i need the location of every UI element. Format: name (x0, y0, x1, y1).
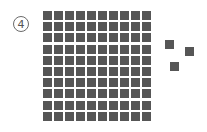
grid-square (120, 56, 129, 65)
grid-square (65, 78, 74, 87)
grid-square (65, 101, 74, 110)
grid-square (76, 101, 85, 110)
grid-square (65, 33, 74, 42)
grid-square (98, 56, 107, 65)
grid-square (65, 11, 74, 20)
grid-square (98, 33, 107, 42)
grid-square (98, 11, 107, 20)
grid-square (109, 33, 118, 42)
grid-square (87, 78, 96, 87)
grid-square (43, 78, 52, 87)
grid-square (76, 89, 85, 98)
grid-square (54, 67, 63, 76)
grid-square (120, 22, 129, 31)
grid-square (54, 33, 63, 42)
grid-square (87, 11, 96, 20)
grid-square (43, 112, 52, 121)
grid-square (54, 89, 63, 98)
grid-square (87, 112, 96, 121)
grid-square (98, 22, 107, 31)
grid-square (120, 89, 129, 98)
grid-square (120, 67, 129, 76)
loose-square (165, 40, 174, 49)
grid-square (131, 56, 140, 65)
grid-square (43, 33, 52, 42)
grid-square (109, 112, 118, 121)
grid-square (131, 101, 140, 110)
grid-square (142, 89, 151, 98)
grid-square (109, 11, 118, 20)
grid-square (65, 22, 74, 31)
grid-square (98, 67, 107, 76)
grid-square (131, 89, 140, 98)
grid-square (142, 112, 151, 121)
grid-square (120, 78, 129, 87)
grid-square (109, 56, 118, 65)
grid-square (76, 45, 85, 54)
grid-square (120, 101, 129, 110)
grid-square (87, 56, 96, 65)
grid-square (142, 22, 151, 31)
grid-square (87, 22, 96, 31)
grid-square (109, 89, 118, 98)
grid-square (131, 112, 140, 121)
grid-square (142, 56, 151, 65)
grid-square (109, 67, 118, 76)
grid-square (142, 67, 151, 76)
grid-square (76, 22, 85, 31)
grid-square (87, 89, 96, 98)
grid-square (109, 101, 118, 110)
grid-square (109, 22, 118, 31)
grid-square (109, 78, 118, 87)
grid-square (43, 67, 52, 76)
grid-square (98, 101, 107, 110)
grid-square (54, 11, 63, 20)
grid-square (43, 89, 52, 98)
grid-square (87, 45, 96, 54)
grid-square (120, 11, 129, 20)
grid-square (87, 101, 96, 110)
grid-square (76, 11, 85, 20)
grid-square (98, 45, 107, 54)
grid-square (54, 78, 63, 87)
grid-square (87, 33, 96, 42)
grid-square (54, 101, 63, 110)
grid-square (142, 33, 151, 42)
grid-square (142, 78, 151, 87)
grid-square (76, 67, 85, 76)
grid-square (131, 33, 140, 42)
grid-square (120, 112, 129, 121)
grid-square (98, 112, 107, 121)
grid-square (65, 45, 74, 54)
grid-square (131, 67, 140, 76)
grid-square (43, 22, 52, 31)
grid-square (65, 89, 74, 98)
hundred-square-grid (43, 11, 151, 121)
grid-square (76, 78, 85, 87)
grid-square (142, 45, 151, 54)
grid-square (120, 45, 129, 54)
grid-square (43, 101, 52, 110)
label-number: 4 (18, 19, 25, 30)
grid-square (142, 101, 151, 110)
grid-square (76, 33, 85, 42)
grid-square (131, 78, 140, 87)
circled-number-label: 4 (13, 16, 29, 32)
grid-square (76, 56, 85, 65)
grid-square (131, 45, 140, 54)
grid-square (54, 22, 63, 31)
loose-square (170, 62, 179, 71)
grid-square (43, 45, 52, 54)
grid-square (65, 112, 74, 121)
grid-square (142, 11, 151, 20)
grid-square (120, 33, 129, 42)
grid-square (43, 11, 52, 20)
grid-square (65, 67, 74, 76)
grid-square (109, 45, 118, 54)
grid-square (98, 78, 107, 87)
loose-square (185, 47, 194, 56)
grid-square (98, 89, 107, 98)
grid-square (54, 56, 63, 65)
grid-square (131, 22, 140, 31)
grid-square (131, 11, 140, 20)
